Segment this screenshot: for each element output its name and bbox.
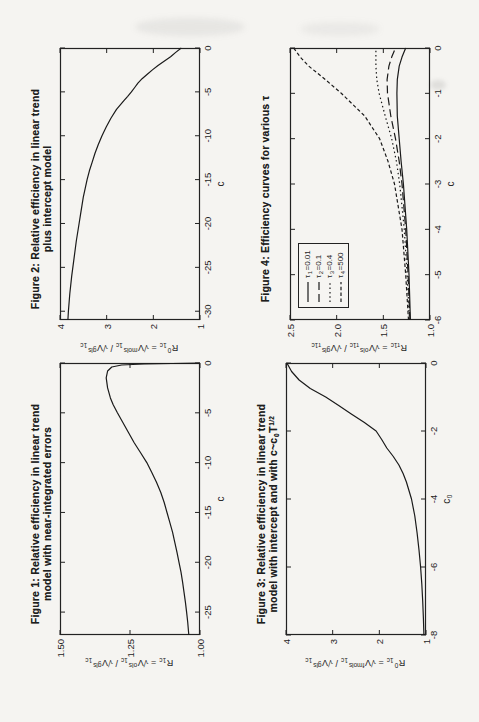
figure-2: Figure 2: Relative efficiency in linear … xyxy=(28,30,240,368)
y-tick-label: 2.5 xyxy=(285,324,296,337)
figure-3-x-axis-label: c0 xyxy=(441,363,452,635)
figure-4-plot-frame: τ1=0.01τ2=0.1τ3=0.4τ4=500 xyxy=(290,48,430,320)
y-tick-label: 1.5 xyxy=(378,324,389,337)
label-part: gls xyxy=(313,663,321,670)
Figure 1-canvas xyxy=(60,363,200,635)
label-part: 1c xyxy=(159,657,166,664)
label-part: τ1c xyxy=(311,342,320,349)
label-part: √V xyxy=(322,658,333,668)
figure-1-title-line1: Figure 1: Relative efficiency in linear … xyxy=(29,345,41,683)
label-part: c xyxy=(445,182,456,187)
label-part: fmols xyxy=(349,663,365,670)
label-part: 1c xyxy=(80,342,87,349)
label-part: gls xyxy=(88,348,96,355)
x-tick-label: -20 xyxy=(202,217,213,231)
figure-3-title-line2: model with intercept and with c~c0T1/2 xyxy=(267,345,279,683)
label-part: c xyxy=(215,497,226,502)
figure-4-x-axis-label: c xyxy=(445,48,456,320)
label-part: 1c xyxy=(387,657,394,664)
label-part: c xyxy=(441,499,452,504)
x-tick-label: -25 xyxy=(202,605,213,619)
figure-3-y-axis-label: R01c = √Vfmols1c / √Vgls1c xyxy=(270,658,440,668)
label-part: / xyxy=(333,658,341,668)
label-part: 1c xyxy=(305,657,312,664)
label-part: plus intercept model xyxy=(41,146,53,253)
x-tick-label: -10 xyxy=(202,456,213,470)
x-tick-label: -6 xyxy=(432,316,443,324)
figure-2-y-axis-label: R01c = √Vmols1c / √Vgls1c xyxy=(44,343,214,353)
legend-label: τ3=0.4 xyxy=(325,255,334,278)
label-part: = xyxy=(149,343,159,353)
figure-3: Figure 3: Relative efficiency in linear … xyxy=(254,345,466,683)
x-tick-label: -25 xyxy=(202,260,213,274)
label-part: = xyxy=(380,343,390,353)
y-tick-label: 4 xyxy=(55,324,66,329)
x-tick-label: -4 xyxy=(432,225,443,233)
legend-line-sample xyxy=(337,282,345,302)
legend-line-sample xyxy=(326,282,334,302)
y-tick-label: 3 xyxy=(101,324,112,329)
label-part: √V xyxy=(102,658,113,668)
label-part: 2 xyxy=(318,271,324,274)
label-part: 1c xyxy=(341,657,348,664)
legend-label: τ4=500 xyxy=(336,252,345,278)
y-tick-label: 1.25 xyxy=(125,639,136,658)
label-part: gls xyxy=(93,663,101,670)
curve-R-1c-ols-vs-gls- xyxy=(106,363,200,635)
figure-3-plot-frame xyxy=(286,363,426,635)
label-part: 1c xyxy=(160,342,167,349)
label-part: 0 xyxy=(273,433,280,437)
x-tick-label: -1 xyxy=(432,89,443,97)
label-part: √V xyxy=(365,658,376,668)
label-part: 0 xyxy=(446,495,453,499)
x-tick-label: -30 xyxy=(202,304,213,318)
curve-R0-1c-mols-vs-gls- xyxy=(68,48,181,320)
label-part: τ1c xyxy=(350,342,359,349)
label-part: 1 xyxy=(307,271,313,274)
y-tick-label: 3 xyxy=(327,639,338,644)
label-part: τ xyxy=(303,275,312,278)
label-part: 1c xyxy=(85,657,92,664)
label-part: 1c xyxy=(116,342,123,349)
label-part: R xyxy=(172,343,179,353)
y-tick-label: 1.50 xyxy=(55,639,66,658)
label-part: R xyxy=(399,658,406,668)
Figure 3-canvas xyxy=(286,363,426,635)
label-part: √V xyxy=(138,658,149,668)
label-part: =0.4 xyxy=(325,255,334,271)
label-part: 1/2 xyxy=(268,416,275,426)
x-tick-label: -5 xyxy=(432,270,443,278)
figure-1-x-axis-label: c xyxy=(215,363,226,635)
figure-1-y-axis-label: R1c = √Vols1c / √Vgls1c xyxy=(44,658,214,668)
x-tick-label: -2 xyxy=(428,427,439,435)
paper-page: Figure 1: Relative efficiency in linear … xyxy=(0,0,479,722)
label-part: R xyxy=(401,343,408,353)
x-tick-label: -6 xyxy=(428,563,439,571)
figure-4: Figure 4: Efficiency curves for various … xyxy=(258,30,470,368)
x-tick-label: -15 xyxy=(202,506,213,520)
label-part: =500 xyxy=(336,252,345,270)
y-tick-label: 1.0 xyxy=(425,324,436,337)
x-tick-label: -5 xyxy=(202,409,213,417)
label-part: √V xyxy=(331,343,342,353)
legend-label: τ1=0.01 xyxy=(303,250,312,278)
figure-4-y-axis-label: Rτ1c = √Volsτ1c / √Vglsτ1c xyxy=(274,343,444,353)
x-tick-label: -8 xyxy=(428,631,439,639)
label-part: 0 xyxy=(168,348,172,355)
Figure 2-canvas xyxy=(60,48,200,320)
figure-1-title-line2: model with near-integrated errors xyxy=(41,345,53,683)
curve-R0-1c-fmols-vs-gls- xyxy=(287,363,424,635)
x-tick-label: -10 xyxy=(202,129,213,143)
x-tick-label: -3 xyxy=(432,180,443,188)
curve-tau3-0-4 xyxy=(376,48,410,320)
figure-1-plot-frame xyxy=(60,363,200,635)
figure-2-x-axis-label: c xyxy=(215,48,226,320)
x-tick-label: 0 xyxy=(432,45,443,50)
curve-tau2-0-1 xyxy=(387,48,410,320)
label-part: τ xyxy=(336,275,345,278)
label-part: 3 xyxy=(329,271,335,274)
y-tick-label: 2.0 xyxy=(331,324,342,337)
y-tick-label: 1 xyxy=(195,324,206,329)
legend-entry: τ3=0.4 xyxy=(324,250,335,302)
label-part: gls xyxy=(322,348,330,355)
